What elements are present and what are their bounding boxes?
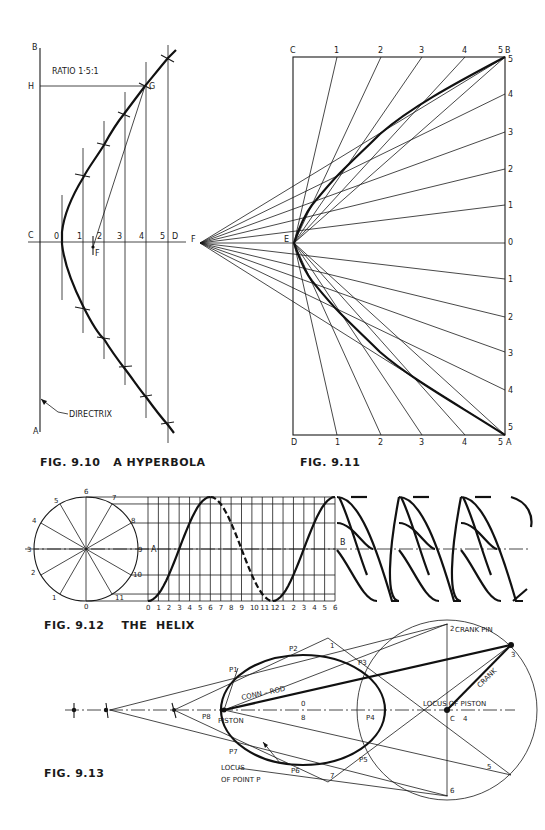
label-C: C bbox=[28, 231, 34, 240]
circle-label-9: 9 bbox=[138, 546, 142, 554]
ray-f-upper-4 bbox=[200, 94, 505, 243]
axis-label-10: 10 bbox=[250, 604, 259, 612]
crank-label-4: 4 bbox=[463, 715, 468, 723]
fig-9-10-caption: FIG. 9.10 A HYPERBOLA bbox=[40, 456, 206, 469]
axis-label-11: 11 bbox=[260, 604, 269, 612]
spring-inner-b-1 bbox=[399, 550, 439, 601]
label-A: A bbox=[33, 427, 39, 436]
axis-label-13: 1 bbox=[281, 604, 285, 612]
label-E: E bbox=[284, 235, 289, 244]
p1-label: P1 bbox=[229, 666, 238, 674]
construction-rays bbox=[200, 57, 505, 435]
engineering-drawing-sheet: B H G RATIO 1·5:1 C 0 1 2 3 4 5 D F DIRE… bbox=[0, 0, 545, 830]
spring-end-top bbox=[511, 497, 531, 527]
circle-label-7: 7 bbox=[112, 494, 116, 502]
label-A: A bbox=[151, 545, 157, 554]
right-label-2: 2 bbox=[508, 165, 513, 174]
axis-label-6: 6 bbox=[208, 604, 213, 612]
ray-e-top-4 bbox=[294, 57, 465, 243]
conn-rod-label: CONN – ROD bbox=[241, 685, 286, 702]
circle-label-4: 4 bbox=[32, 517, 37, 525]
crank-pin-point bbox=[508, 642, 514, 648]
axis-label-14: 2 bbox=[291, 604, 295, 612]
axis-label-1: 1 bbox=[156, 604, 160, 612]
p6-label: P6 bbox=[291, 767, 300, 775]
bottom-label-1: 1 bbox=[335, 438, 340, 447]
locus-label-line2: OF POINT P bbox=[221, 776, 261, 784]
p8-label: P8 bbox=[202, 713, 211, 721]
label-C: C bbox=[290, 46, 296, 55]
axis-label-0: 0 bbox=[146, 604, 150, 612]
label-B: B bbox=[340, 538, 346, 547]
fig-9-13-crank-mechanism: P1 P2 P3 P4 P5 P6 P7 P8 PISTON CONN – RO… bbox=[44, 620, 537, 800]
axis-label-2: 2 bbox=[167, 604, 171, 612]
circle-label-8: 8 bbox=[131, 517, 135, 525]
circle-label-3: 3 bbox=[27, 546, 31, 554]
ray-f-upper-2 bbox=[200, 169, 505, 243]
hyperbola-curve bbox=[62, 50, 176, 433]
crank-label-8: 8 bbox=[301, 714, 305, 722]
ray-f-upper-1 bbox=[200, 205, 505, 243]
circle-label-6: 6 bbox=[84, 488, 89, 496]
ray-e-top-5 bbox=[294, 57, 505, 243]
directrix-label: DIRECTRIX bbox=[69, 410, 113, 419]
axis-label-16: 4 bbox=[312, 604, 317, 612]
locus-label-line1: LOCUS bbox=[221, 764, 245, 772]
right-label-lower-2: 2 bbox=[508, 313, 513, 322]
locus-of-piston-label: LOCUS OF PISTON bbox=[423, 700, 486, 708]
circle-label-5: 5 bbox=[54, 497, 58, 505]
col-label-4: 4 bbox=[139, 232, 144, 241]
axis-label-4: 4 bbox=[188, 604, 193, 612]
right-label-1: 1 bbox=[508, 201, 513, 210]
fig-9-12-helix: 6 5 4 3 2 1 0 7 8 9 10 11 01234567891011… bbox=[25, 488, 531, 632]
crank-label-0: 0 bbox=[301, 700, 305, 708]
axis-label-5: 5 bbox=[198, 604, 202, 612]
axis-label-12: 12 bbox=[271, 604, 280, 612]
spring-inner-c-1 bbox=[399, 523, 435, 549]
p5-label: P5 bbox=[359, 756, 368, 764]
axis-label-9: 9 bbox=[240, 604, 244, 612]
spring-inner-b-2 bbox=[461, 550, 501, 601]
ray-f-upper-3 bbox=[200, 132, 505, 243]
axis-label-8: 8 bbox=[229, 604, 233, 612]
right-label-lower-1: 1 bbox=[508, 275, 513, 284]
crank-label-3: 3 bbox=[511, 651, 515, 659]
fig-9-10-hyperbola: B H G RATIO 1·5:1 C 0 1 2 3 4 5 D F DIRE… bbox=[28, 43, 206, 469]
ray-f-lower-1 bbox=[200, 243, 505, 279]
spring-inner-b-0 bbox=[337, 550, 377, 601]
label-C: C bbox=[450, 715, 455, 723]
right-label-3: 3 bbox=[508, 128, 513, 137]
right-label-0: 0 bbox=[508, 238, 513, 247]
spring-inner-a-2 bbox=[463, 497, 491, 575]
p3-label: P3 bbox=[358, 659, 367, 667]
fig-9-13-caption: FIG. 9.13 bbox=[44, 767, 104, 780]
axis-label-7: 7 bbox=[219, 604, 223, 612]
circle-label-10: 10 bbox=[133, 571, 142, 579]
top-label-2: 2 bbox=[378, 46, 383, 55]
right-labels: 5 4 3 2 1 0 1 2 3 4 5 bbox=[508, 55, 513, 432]
label-H: H bbox=[28, 82, 34, 91]
label-F-focus: F bbox=[95, 249, 100, 258]
p4-label: P4 bbox=[366, 714, 375, 722]
axis-label-3: 3 bbox=[177, 604, 181, 612]
col-label-5: 5 bbox=[160, 232, 165, 241]
right-label-5: 5 bbox=[508, 55, 513, 64]
crank-label-1: 1 bbox=[330, 642, 334, 650]
circle-label-1: 1 bbox=[52, 594, 56, 602]
label-B: B bbox=[505, 46, 511, 55]
right-label-lower-4: 4 bbox=[508, 386, 513, 395]
ray-e-top-3 bbox=[294, 57, 422, 243]
col-label-3: 3 bbox=[117, 232, 122, 241]
ray-f-lower-3 bbox=[200, 243, 505, 352]
circle-label-2: 2 bbox=[31, 569, 35, 577]
ray-f-lower-2 bbox=[200, 243, 505, 317]
col-label-0: 0 bbox=[54, 232, 59, 241]
bottom-label-5: 5 bbox=[498, 438, 503, 447]
top-label-5: 5 bbox=[498, 46, 503, 55]
label-B: B bbox=[32, 43, 38, 52]
crank-label-2: 2 bbox=[450, 625, 454, 633]
spring-inner-a-0 bbox=[339, 497, 367, 575]
circle-label-0: 0 bbox=[84, 603, 88, 611]
crank-label-7: 7 bbox=[330, 772, 334, 780]
col-label-1: 1 bbox=[77, 232, 82, 241]
